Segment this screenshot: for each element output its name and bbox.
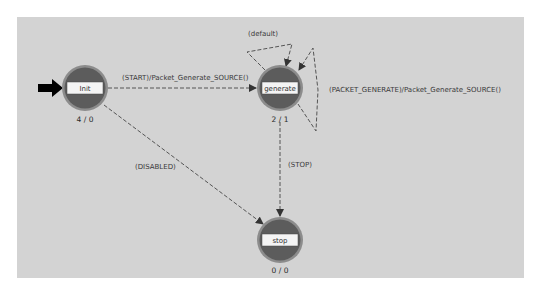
state-counts-generate: 2 / 1 [272, 115, 289, 124]
transition-packet-generate[interactable]: (PACKET_GENERATE)/Packet_Generate_SOURCE… [298, 48, 501, 131]
state-label-init: Init [79, 85, 90, 93]
transition-default[interactable]: (default) [247, 30, 292, 70]
transition-label-packet-generate: (PACKET_GENERATE)/Packet_Generate_SOURCE… [329, 86, 501, 94]
initial-state-arrow-icon [38, 79, 63, 97]
state-init[interactable]: Init 4 / 0 [62, 65, 108, 124]
state-label-stop: stop [272, 237, 288, 245]
transition-label-default: (default) [248, 30, 278, 38]
transition-label-start: (START)/Packet_Generate_SOURCE() [122, 74, 249, 82]
transition-start[interactable]: (START)/Packet_Generate_SOURCE() [108, 74, 256, 88]
state-counts-stop: 0 / 0 [272, 266, 289, 275]
transition-label-disabled: (DISABLED) [135, 163, 176, 171]
transition-stop[interactable]: (STOP) [280, 122, 312, 216]
state-stop[interactable]: stop 0 / 0 [257, 217, 303, 275]
state-counts-init: 4 / 0 [77, 115, 94, 124]
transition-disabled[interactable]: (DISABLED) [104, 105, 263, 224]
state-diagram: (START)/Packet_Generate_SOURCE() (defaul… [0, 0, 539, 293]
state-label-generate: generate [264, 85, 296, 93]
transition-label-stop: (STOP) [288, 161, 312, 169]
state-generate[interactable]: generate 2 / 1 [257, 65, 303, 124]
